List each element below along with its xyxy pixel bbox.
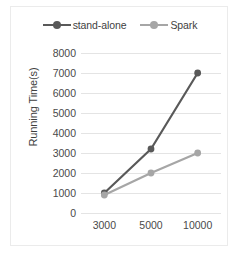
legend-label-spark: Spark [170, 19, 197, 31]
y-axis-title: Running Time(s) [27, 37, 39, 177]
x-axis-tick-label: 10000 [183, 219, 212, 231]
data-point-marker [194, 150, 201, 157]
legend-label-stand-alone: stand-alone [73, 19, 127, 31]
y-axis-tick-label: 7000 [53, 67, 76, 79]
data-point-marker [148, 170, 155, 177]
data-point-marker [194, 70, 201, 77]
data-series-layer [81, 53, 221, 213]
legend-item-spark: Spark [140, 19, 197, 31]
x-axis-tick-label: 5000 [139, 219, 162, 231]
gridline [81, 213, 221, 214]
chart-container: stand-alone Spark Running Time(s) 010002… [10, 6, 228, 246]
y-axis-tick-label: 3000 [53, 147, 76, 159]
x-axis-tick-label: 3000 [93, 219, 116, 231]
legend-marker-icon [140, 20, 168, 30]
y-axis-tick-label: 0 [70, 207, 76, 219]
chart-legend: stand-alone Spark [11, 19, 229, 31]
y-axis-tick-label: 8000 [53, 47, 76, 59]
legend-item-stand-alone: stand-alone [43, 19, 127, 31]
legend-marker-icon [43, 20, 71, 30]
data-point-marker [101, 192, 108, 199]
y-axis-tick-label: 1000 [53, 187, 76, 199]
data-point-marker [148, 146, 155, 153]
y-axis-tick-label: 5000 [53, 107, 76, 119]
y-axis-tick-label: 4000 [53, 127, 76, 139]
y-axis-tick-label: 2000 [53, 167, 76, 179]
y-axis-tick-label: 6000 [53, 87, 76, 99]
plot-area: 010002000300040005000600070008000 300050… [81, 53, 221, 213]
